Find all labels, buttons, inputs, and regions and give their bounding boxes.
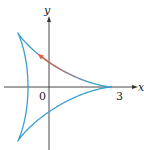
origin-label: 0 [39,90,46,103]
direction-arrow-segment [42,57,94,83]
x-axis-label: x [138,81,144,94]
x-tick-3-label: 3 [116,90,123,103]
plot-svg: x y 0 3 [0,0,144,150]
deltoid-figure: x y 0 3 [0,0,144,150]
y-axis-label: y [43,4,51,17]
